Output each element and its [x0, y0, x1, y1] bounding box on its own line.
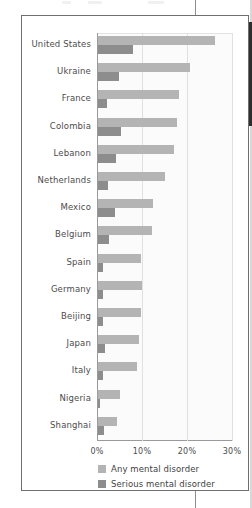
bar-serious-mental-disorder [98, 127, 121, 136]
category-label-belgium: Belgium [19, 229, 91, 239]
legend-swatch-any [98, 465, 106, 473]
bar-serious-mental-disorder [98, 235, 109, 244]
bar-serious-mental-disorder [98, 426, 104, 435]
bar-any-mental-disorder [98, 172, 165, 181]
category-label-united-states: United States [19, 39, 91, 49]
legend-label-serious: Serious mental disorder [111, 479, 215, 489]
bar-any-mental-disorder [98, 362, 137, 371]
bar-group [97, 36, 232, 63]
category-label-nigeria: Nigeria [19, 393, 91, 403]
legend-swatch-serious [98, 480, 106, 488]
bar-any-mental-disorder [98, 390, 120, 399]
category-label-shanghai: Shanghai [19, 420, 91, 430]
bar-serious-mental-disorder [98, 344, 105, 353]
bar-any-mental-disorder [98, 226, 152, 235]
category-label-france: France [19, 93, 91, 103]
bar-serious-mental-disorder [98, 290, 103, 299]
x-tick-30pct: 30% [217, 447, 247, 456]
legend-item-any[interactable]: Any mental disorder [98, 464, 199, 474]
bar-any-mental-disorder [98, 36, 215, 45]
category-label-colombia: Colombia [19, 121, 91, 131]
bar-serious-mental-disorder [98, 208, 115, 217]
bar-rows [97, 33, 232, 441]
bar-any-mental-disorder [98, 254, 141, 263]
category-label-ukraine: Ukraine [19, 66, 91, 76]
category-label-germany: Germany [19, 284, 91, 294]
bar-group [97, 118, 232, 145]
bar-serious-mental-disorder [98, 399, 100, 408]
bar-any-mental-disorder [98, 118, 177, 127]
legend-item-serious[interactable]: Serious mental disorder [98, 479, 215, 489]
bar-group [97, 417, 232, 444]
bar-group [97, 362, 232, 389]
category-label-japan: Japan [19, 338, 91, 348]
figure-container: United StatesUkraineFranceColombiaLebano… [21, 15, 249, 491]
category-axis-labels: United StatesUkraineFranceColombiaLebano… [22, 33, 94, 441]
category-label-spain: Spain [19, 257, 91, 267]
bar-serious-mental-disorder [98, 263, 103, 272]
bar-group [97, 226, 232, 253]
bar-serious-mental-disorder [98, 317, 103, 326]
cropped-text-sliver [62, 1, 184, 7]
category-label-mexico: Mexico [19, 202, 91, 212]
plot-area [97, 33, 232, 441]
bar-serious-mental-disorder [98, 154, 116, 163]
legend-label-any: Any mental disorder [111, 464, 199, 474]
category-label-italy: Italy [19, 365, 91, 375]
bar-serious-mental-disorder [98, 45, 133, 54]
bar-serious-mental-disorder [98, 181, 108, 190]
bar-any-mental-disorder [98, 335, 139, 344]
bar-serious-mental-disorder [98, 72, 119, 81]
bar-group [97, 281, 232, 308]
bar-group [97, 63, 232, 90]
gridline-30 [232, 33, 233, 441]
bar-serious-mental-disorder [98, 371, 103, 380]
bar-any-mental-disorder [98, 199, 153, 208]
bar-any-mental-disorder [98, 90, 179, 99]
category-label-netherlands: Netherlands [19, 175, 91, 185]
bar-any-mental-disorder [98, 417, 117, 426]
x-tick-0pct: 0% [82, 447, 112, 456]
category-label-beijing: Beijing [19, 311, 91, 321]
bar-any-mental-disorder [98, 281, 142, 290]
bar-serious-mental-disorder [98, 99, 107, 108]
bar-chart: United StatesUkraineFranceColombiaLebano… [22, 16, 248, 490]
bar-group [97, 390, 232, 417]
bar-group [97, 145, 232, 172]
bar-any-mental-disorder [98, 145, 174, 154]
bar-group [97, 254, 232, 281]
bar-any-mental-disorder [98, 63, 190, 72]
bar-group [97, 335, 232, 362]
category-label-lebanon: Lebanon [19, 148, 91, 158]
bar-group [97, 308, 232, 335]
bar-group [97, 90, 232, 117]
bar-group [97, 199, 232, 226]
bar-any-mental-disorder [98, 308, 141, 317]
bar-group [97, 172, 232, 199]
x-tick-20pct: 20% [172, 447, 202, 456]
x-tick-10pct: 10% [127, 447, 157, 456]
